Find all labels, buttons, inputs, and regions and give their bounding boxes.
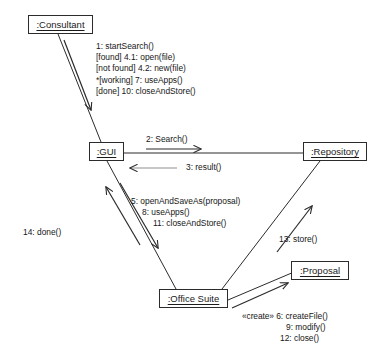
message-label: 12: close()	[242, 333, 328, 344]
message-label: 3: result()	[186, 162, 221, 173]
object-repository[interactable]: :Repository	[303, 142, 367, 161]
message-label: 9: modify()	[242, 322, 328, 333]
messages-consultant-to-gui: 1: startSearch() [found] 4.1: open(file)…	[96, 41, 196, 97]
message-label: 2: Search()	[146, 134, 187, 145]
messages-office-suite-to-gui: 14: done()	[23, 227, 61, 238]
message-label: [not found] 4.2: new(file)	[96, 63, 196, 74]
messages-office-suite-to-repository: 13: store()	[279, 234, 317, 245]
object-proposal[interactable]: :Proposal	[291, 261, 349, 280]
object-gui-label: :GUI	[97, 147, 117, 157]
object-gui[interactable]: :GUI	[89, 142, 124, 161]
object-office-suite-label: :Office Suite	[168, 294, 220, 304]
stereotype-create: «create»	[242, 311, 274, 321]
link-consultant-gui	[58, 34, 101, 142]
message-label: 1: startSearch()	[96, 41, 196, 52]
message-label: 14: done()	[23, 227, 61, 238]
message-label: 11: closeAndStore()	[131, 218, 240, 229]
object-repository-label: :Repository	[311, 147, 359, 157]
message-label: 8: useApps()	[131, 207, 240, 218]
object-consultant[interactable]: :Consultant	[28, 15, 93, 34]
arrow-consultant-to-gui	[64, 40, 91, 110]
message-label: 6: createFile()	[276, 311, 328, 321]
message-label: *[working] 7: useApps()	[96, 75, 196, 86]
link-office-suite-proposal	[228, 272, 294, 300]
message-label-with-stereotype: «create» 6: createFile()	[242, 311, 328, 322]
message-label: [done] 10: closeAndStore()	[96, 86, 196, 97]
object-consultant-label: :Consultant	[36, 20, 84, 30]
object-office-suite[interactable]: :Office Suite	[159, 289, 228, 308]
message-label: 5: openAndSaveAs(proposal)	[131, 196, 240, 207]
messages-gui-to-office-suite: 5: openAndSaveAs(proposal) 8: useApps() …	[131, 196, 240, 230]
uml-communication-diagram: :Consultant :GUI :Repository :Office Sui…	[0, 0, 383, 356]
messages-office-suite-to-proposal: «create» 6: createFile() 9: modify() 12:…	[242, 311, 328, 345]
object-proposal-label: :Proposal	[300, 266, 340, 276]
message-label: 13: store()	[279, 234, 317, 245]
messages-repository-to-gui: 3: result()	[186, 162, 221, 173]
message-label: [found] 4.1: open(file)	[96, 52, 196, 63]
messages-gui-to-repository: 2: Search()	[146, 134, 187, 145]
